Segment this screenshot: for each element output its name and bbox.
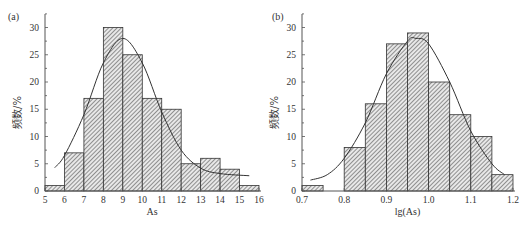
x-tick-label: 12 bbox=[176, 195, 186, 205]
histogram-bar bbox=[84, 98, 103, 191]
histogram-bar bbox=[103, 28, 122, 192]
histogram-bar bbox=[220, 169, 239, 191]
histogram-bar bbox=[162, 109, 181, 191]
histogram-lg-as: 0510152025300.70.80.91.01.11.2lg(As)频数/%… bbox=[268, 11, 519, 218]
x-tick-label: 0.9 bbox=[380, 195, 392, 205]
x-tick-label: 0.7 bbox=[296, 195, 308, 205]
histogram-bar bbox=[142, 98, 161, 191]
histogram-bar bbox=[123, 55, 142, 191]
y-axis-label: 频数/% bbox=[11, 96, 23, 129]
y-tick-label: 10 bbox=[30, 132, 40, 142]
histogram-bar bbox=[181, 164, 200, 191]
figure: 0510152025305678910111213141516As频数/%(a)… bbox=[0, 0, 529, 228]
histogram-bar bbox=[64, 153, 83, 191]
histogram-bar bbox=[429, 82, 450, 191]
x-tick-label: 9 bbox=[120, 195, 125, 205]
x-tick-label: 5 bbox=[43, 195, 48, 205]
histogram-bar bbox=[240, 186, 259, 191]
x-tick-label: 0.8 bbox=[338, 195, 350, 205]
y-tick-label: 10 bbox=[287, 132, 297, 142]
y-tick-label: 0 bbox=[34, 186, 39, 196]
bars bbox=[302, 33, 513, 191]
y-tick-label: 15 bbox=[30, 104, 40, 114]
y-tick-label: 30 bbox=[30, 23, 40, 33]
histogram-bar bbox=[386, 44, 407, 191]
x-tick-label: 15 bbox=[235, 195, 245, 205]
x-tick-label: 7 bbox=[82, 195, 87, 205]
histogram-bar bbox=[201, 158, 220, 191]
x-tick-label: 10 bbox=[138, 195, 148, 205]
y-tick-label: 20 bbox=[30, 77, 40, 87]
x-tick-label: 8 bbox=[101, 195, 106, 205]
histogram-bar bbox=[492, 175, 513, 191]
x-tick-label: 14 bbox=[215, 195, 225, 205]
y-tick-label: 15 bbox=[287, 104, 297, 114]
y-tick-label: 5 bbox=[291, 159, 296, 169]
x-axis-label: lg(As) bbox=[395, 206, 421, 218]
histogram-bar bbox=[45, 186, 64, 191]
x-tick-label: 1.2 bbox=[507, 195, 519, 205]
y-tick-label: 30 bbox=[287, 23, 297, 33]
x-tick-label: 1.0 bbox=[423, 195, 435, 205]
panel-label: (b) bbox=[272, 11, 284, 23]
y-tick-label: 5 bbox=[34, 159, 39, 169]
histogram-as: 0510152025305678910111213141516As频数/%(a) bbox=[8, 11, 264, 217]
x-tick-label: 16 bbox=[254, 195, 264, 205]
y-tick-label: 25 bbox=[287, 50, 297, 60]
x-tick-label: 1.1 bbox=[465, 195, 477, 205]
x-tick-label: 13 bbox=[196, 195, 206, 205]
histogram-bar bbox=[450, 115, 471, 191]
y-tick-label: 25 bbox=[30, 50, 40, 60]
panel-label: (a) bbox=[8, 11, 19, 23]
bars bbox=[45, 28, 259, 192]
x-tick-label: 11 bbox=[157, 195, 166, 205]
histogram-bar bbox=[408, 33, 429, 191]
x-tick-label: 6 bbox=[62, 195, 67, 205]
x-axis-label: As bbox=[146, 206, 157, 217]
histogram-bar bbox=[471, 137, 492, 192]
y-tick-label: 20 bbox=[287, 77, 297, 87]
y-axis-label: 频数/% bbox=[268, 96, 280, 129]
histogram-bar bbox=[302, 186, 323, 191]
